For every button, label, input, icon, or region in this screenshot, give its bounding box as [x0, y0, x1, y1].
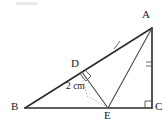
measurement-label-2cm: 2 cm — [66, 82, 85, 92]
vertex-label-A: A — [142, 9, 150, 20]
right-angle-mark-C — [145, 101, 152, 108]
vertex-label-E: E — [104, 110, 111, 121]
segment-BA — [25, 28, 152, 108]
vertex-label-D: D — [71, 58, 79, 69]
vertex-label-C: C — [155, 101, 162, 112]
measure-guide-to-E — [87, 96, 107, 107]
segment-AE — [108, 28, 152, 108]
geometry-diagram: A B C D E 2 cm — [0, 0, 168, 124]
vertex-label-B: B — [11, 101, 18, 112]
right-angle-mark-D — [85, 70, 91, 81]
